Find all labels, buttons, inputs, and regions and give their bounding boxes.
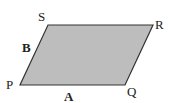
- vertex-label-s: S: [38, 9, 45, 24]
- vertex-label-q: Q: [127, 84, 137, 99]
- vertex-label-r: R: [155, 17, 164, 32]
- side-label-a: A: [64, 89, 74, 103]
- vertex-label-p: P: [6, 77, 13, 92]
- side-label-b: B: [22, 40, 31, 55]
- parallelogram-diagram: S R P Q B A: [0, 0, 170, 103]
- parallelogram-shape: [20, 25, 153, 85]
